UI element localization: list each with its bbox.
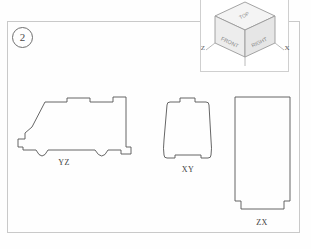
cube-axis-z-line — [206, 43, 215, 50]
xy-outline-shape — [155, 95, 221, 165]
cube-axis-label-z: Z — [201, 44, 205, 52]
view-label-yz: YZ — [34, 158, 94, 167]
yz-outline-shape — [16, 95, 134, 157]
projection-view-xy: XY — [155, 95, 221, 165]
cube-axis-label-x: X — [284, 44, 289, 52]
projection-view-zx: ZX — [232, 95, 298, 217]
view-cube-container[interactable]: TOP FRONT RIGHT Z X — [200, 0, 289, 72]
view-label-zx: ZX — [232, 218, 292, 227]
item-number-badge: 2 — [12, 27, 33, 48]
projection-view-yz: YZ — [16, 95, 146, 157]
cube-axis-x-line — [275, 43, 284, 50]
view-cube-icon[interactable]: TOP FRONT RIGHT Z X — [201, 0, 290, 74]
view-label-xy: XY — [155, 165, 221, 174]
zx-outline-shape — [232, 95, 294, 217]
